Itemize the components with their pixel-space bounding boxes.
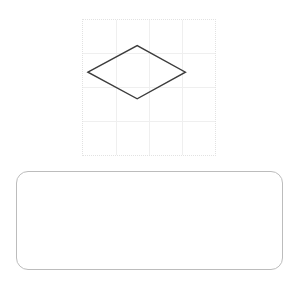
answer-box-text[interactable] xyxy=(29,182,270,259)
canvas-root xyxy=(0,0,300,283)
answer-box[interactable] xyxy=(16,171,283,270)
shape-grid-panel[interactable] xyxy=(82,19,216,156)
grid-lines-layer xyxy=(83,20,215,155)
